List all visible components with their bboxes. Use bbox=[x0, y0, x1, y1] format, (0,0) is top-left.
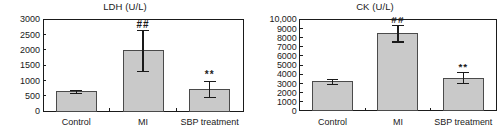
bar bbox=[378, 34, 418, 111]
x-tick-label: SBP treatment bbox=[180, 117, 239, 127]
significance-annotation: ## bbox=[391, 14, 404, 25]
x-tick-label: Control bbox=[318, 117, 347, 127]
y-tick-label: 500 bbox=[25, 91, 40, 101]
y-tick-label: 5000 bbox=[277, 60, 297, 70]
y-tick-label: 4000 bbox=[277, 69, 297, 79]
y-tick-label: 7000 bbox=[277, 42, 297, 52]
y-tick-label: 2000 bbox=[277, 88, 297, 98]
x-tick-label: MI bbox=[138, 117, 148, 127]
y-tick-label: 3000 bbox=[277, 79, 297, 89]
y-tick-label: 2500 bbox=[20, 30, 40, 40]
y-tick-label: 0 bbox=[292, 106, 297, 116]
y-tick-label: 8000 bbox=[277, 33, 297, 43]
significance-annotation: ** bbox=[458, 61, 468, 72]
plot-area-ldh: 050010001500200025003000Control##MI**SBP… bbox=[0, 0, 250, 131]
x-tick-label: SBP treatment bbox=[434, 117, 493, 127]
y-tick-label: 3000 bbox=[20, 14, 40, 24]
figure-two-panel-bar-charts: LDH (U/L) 050010001500200025003000Contro… bbox=[0, 0, 501, 131]
y-tick-label: 1000 bbox=[277, 97, 297, 107]
bar-chart-ck: 010002000300040005000600070008000900010,… bbox=[250, 0, 500, 131]
y-tick-label: 6000 bbox=[277, 51, 297, 61]
y-tick-label: 1500 bbox=[20, 60, 40, 70]
panel-ldh: LDH (U/L) 050010001500200025003000Contro… bbox=[0, 0, 250, 131]
bar bbox=[313, 82, 353, 111]
y-tick-label: 2000 bbox=[20, 45, 40, 55]
y-tick-label: 10,000 bbox=[269, 14, 296, 24]
y-tick-label: 9000 bbox=[277, 24, 297, 34]
x-tick-label: MI bbox=[393, 117, 403, 127]
significance-annotation: ** bbox=[205, 69, 215, 80]
bar-chart-ldh: 050010001500200025003000Control##MI**SBP… bbox=[0, 0, 250, 131]
significance-annotation: ## bbox=[136, 19, 149, 30]
plot-area-ck: 010002000300040005000600070008000900010,… bbox=[250, 0, 500, 131]
y-tick-label: 1000 bbox=[20, 76, 40, 86]
y-tick-label: 0 bbox=[35, 106, 40, 116]
bar bbox=[56, 92, 96, 111]
panel-ck: CK (U/L) 0100020003000400050006000700080… bbox=[250, 0, 500, 131]
x-tick-label: Control bbox=[62, 117, 91, 127]
